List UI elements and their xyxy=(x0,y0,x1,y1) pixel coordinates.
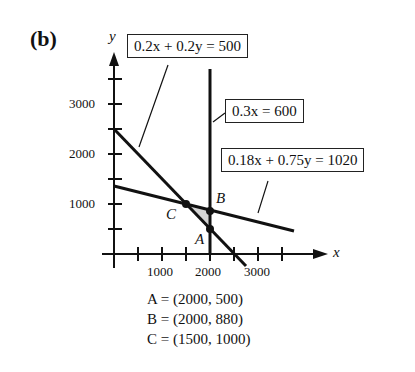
x-axis-label: x xyxy=(333,244,340,261)
coord-b: B = (2000, 880) xyxy=(147,309,250,329)
equation-box-3: 0.18x + 0.75y = 1020 xyxy=(221,148,364,172)
y-tick-label-1000: 1000 xyxy=(69,196,95,212)
y-tick-label-3000: 3000 xyxy=(69,96,95,112)
y-tick-label-2000: 2000 xyxy=(69,146,95,162)
point-b-label: B xyxy=(216,190,225,207)
coordinates-list: A = (2000, 500) B = (2000, 880) C = (150… xyxy=(147,289,250,349)
point-c-marker xyxy=(182,200,190,208)
point-a-marker xyxy=(206,225,214,233)
point-c-label: C xyxy=(166,206,176,223)
coord-c: C = (1500, 1000) xyxy=(147,329,250,349)
equation-box-1: 0.2x + 0.2y = 500 xyxy=(127,34,248,58)
y-axis-label: y xyxy=(109,28,116,45)
point-b-marker xyxy=(206,207,214,215)
x-axis-arrow-icon xyxy=(313,249,328,259)
x-tick-label-2000: 2000 xyxy=(195,264,221,280)
equation-box-2: 0.3x = 600 xyxy=(225,99,304,123)
leader-eq3 xyxy=(258,181,268,213)
x-tick-label-1000: 1000 xyxy=(147,264,173,280)
coord-a: A = (2000, 500) xyxy=(147,289,250,309)
leader-eq1 xyxy=(139,65,168,147)
x-tick-label-3000: 3000 xyxy=(244,264,270,280)
y-axis-arrow-icon xyxy=(109,52,119,66)
leader-eq2 xyxy=(213,113,225,122)
point-a-label: A xyxy=(195,231,204,248)
